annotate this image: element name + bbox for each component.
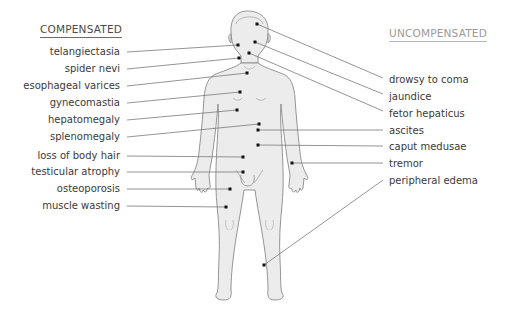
gynecomastia-dot [239, 91, 242, 94]
loss-of-body-hair-dot [242, 156, 245, 159]
label-muscle-wasting: muscle wasting [42, 200, 120, 212]
tremor-dot [291, 162, 294, 165]
peripheral-edema-dot [263, 264, 266, 267]
caput-medusae-dot [257, 144, 260, 147]
uncompensated-heading: UNCOMPENSATED [389, 27, 487, 42]
muscle-wasting-dot [225, 206, 228, 209]
label-ascites: ascites [389, 125, 424, 137]
ascites-dot [257, 129, 260, 132]
label-peripheral-edema: peripheral edema [389, 175, 478, 187]
label-tremor: tremor [389, 158, 423, 170]
esophageal-varices-dot [246, 72, 249, 75]
label-caput-medusae: caput medusae [389, 141, 466, 153]
splenomegaly-dot [258, 123, 261, 126]
compensated-heading: COMPENSATED [40, 23, 122, 38]
label-jaundice: jaundice [389, 91, 431, 103]
drowsy-to-coma-dot [256, 23, 259, 26]
label-hepatomegaly: hepatomegaly [48, 114, 120, 126]
label-testicular-atrophy: testicular atrophy [31, 166, 120, 178]
jaundice-dot [254, 41, 257, 44]
label-telangiectasia: telangiectasia [50, 46, 120, 58]
testicular-atrophy-dot [242, 171, 245, 174]
osteoporosis-dot [229, 188, 232, 191]
label-gynecomastia: gynecomastia [50, 97, 120, 109]
label-spider-nevi: spider nevi [65, 63, 120, 75]
cirrhosis-signs-diagram: COMPENSATED UNCOMPENSATED telangiectasia… [0, 0, 509, 316]
spider-nevi-dot [238, 57, 241, 60]
label-fetor-hepaticus: fetor hepaticus [389, 108, 465, 120]
fetor-hepaticus-dot [248, 52, 251, 55]
label-loss-of-body-hair: loss of body hair [37, 150, 120, 162]
label-drowsy-to-coma: drowsy to coma [389, 74, 469, 86]
label-esophageal-varices: esophageal varices [23, 80, 120, 92]
label-splenomegaly: splenomegaly [50, 131, 120, 143]
hepatomegaly-dot [236, 109, 239, 112]
telangiectasia-dot [237, 44, 240, 47]
label-osteoporosis: osteoporosis [57, 183, 120, 195]
